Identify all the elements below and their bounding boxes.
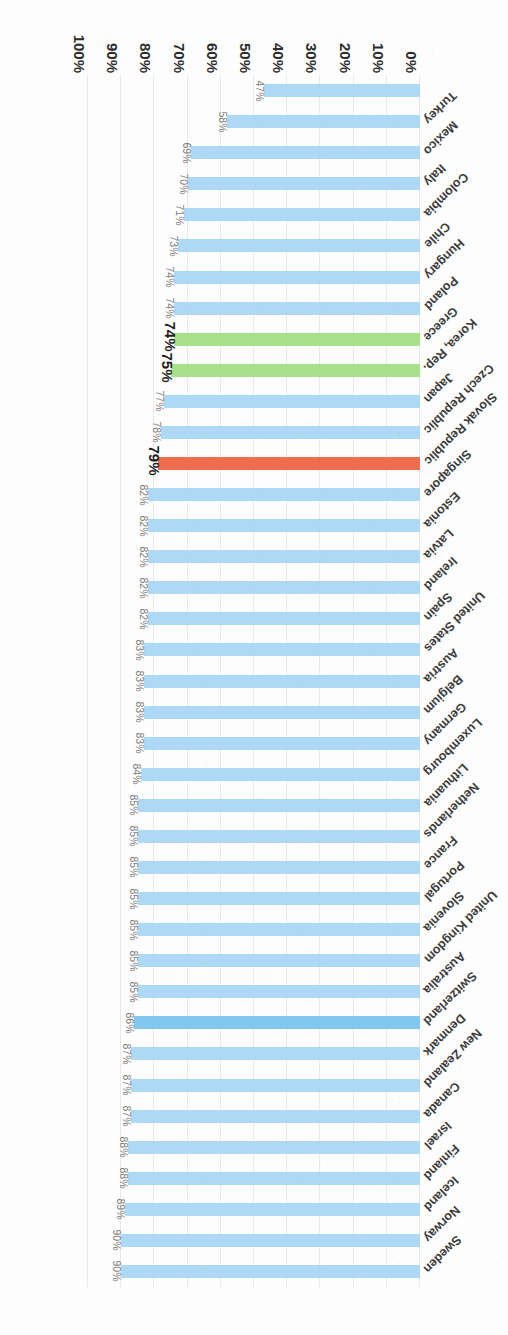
- plot-area: 90%Sweden90%Norway89%Iceland88%Finland88…: [88, 75, 420, 1287]
- bar-row: 85%Australia: [88, 976, 420, 1007]
- bar: [148, 612, 420, 625]
- bar-row: 85%Netherlands: [88, 821, 420, 852]
- bar-value-label: 82%: [138, 577, 150, 598]
- bar: [191, 146, 420, 159]
- bar: [128, 1141, 420, 1154]
- bar: [148, 581, 420, 594]
- bar: [174, 302, 420, 315]
- bar: [148, 519, 420, 532]
- x-axis-tick: 80%: [137, 43, 154, 73]
- bar-value-label: 77%: [154, 391, 166, 412]
- bar-value-label: 90%: [111, 1230, 123, 1251]
- bar-value-label: 47%: [254, 80, 266, 101]
- bar-value-label: 83%: [134, 733, 146, 754]
- bar: [131, 1079, 420, 1092]
- bar: [138, 923, 420, 936]
- bar: [148, 488, 420, 501]
- bar-row: 58%Turkey: [88, 106, 420, 137]
- bar: [134, 1016, 420, 1029]
- bar-value-label: 83%: [134, 702, 146, 723]
- bar: [121, 1234, 420, 1247]
- x-axis-tick: 50%: [237, 43, 254, 73]
- bar: [188, 177, 420, 190]
- bar: [164, 395, 420, 408]
- bar-row: 84%Luxembourg: [88, 759, 420, 790]
- bar-value-label: 85%: [128, 950, 140, 971]
- x-axis-tick: 10%: [370, 43, 387, 73]
- bar-value-label: 85%: [128, 981, 140, 1002]
- bar-row: 75%Korea, Rep.: [88, 355, 420, 386]
- bar: [227, 115, 420, 128]
- bar-row: 83%United States: [88, 634, 420, 665]
- bar-value-label: 82%: [138, 484, 150, 505]
- bar-row: 82%Singapore: [88, 479, 420, 510]
- bar-row: 90%Sweden: [88, 1256, 420, 1287]
- bar-row: 85%Lithuania: [88, 790, 420, 821]
- bar-row: 87%Denmark: [88, 1038, 420, 1069]
- bar: [161, 426, 420, 439]
- bar: [138, 892, 420, 905]
- rotated-chart-wrapper: 90%Sweden90%Norway89%Iceland88%Finland88…: [0, 0, 508, 1335]
- x-axis-tick: 60%: [204, 43, 221, 73]
- x-axis-tick: 30%: [303, 43, 320, 73]
- bar: [178, 239, 420, 252]
- bar-value-label: 83%: [134, 671, 146, 692]
- bar-value-label: 82%: [138, 515, 150, 536]
- bar-row: 82%Spain: [88, 603, 420, 634]
- bar: [174, 271, 420, 284]
- bar: [144, 675, 420, 688]
- bar-row: 87%New Zealand: [88, 1069, 420, 1100]
- bar-row: 69%Mexico: [88, 137, 420, 168]
- bar-row: 85%Slovenia: [88, 914, 420, 945]
- bar: [144, 737, 420, 750]
- bar-value-label: 58%: [217, 111, 229, 132]
- x-axis-tick: 100%: [71, 35, 88, 73]
- bar-row: 88%Finland: [88, 1163, 420, 1194]
- bar: [138, 954, 420, 967]
- bar-row: 85%Portugal: [88, 883, 420, 914]
- bar-row: 82%Estonia: [88, 510, 420, 541]
- bar-row: 77%Japan: [88, 386, 420, 417]
- bar-row: 85%France: [88, 852, 420, 883]
- bar-row: 74%Greece: [88, 324, 420, 355]
- x-axis-tick: 70%: [171, 43, 188, 73]
- bar-row: 85%United Kingdom: [88, 945, 420, 976]
- bar-value-label: 74%: [162, 322, 179, 352]
- bar-row: 47%: [88, 75, 420, 106]
- bar-row: 79%Slovak Republic: [88, 448, 420, 479]
- bar-row: 86%Switzerland: [88, 1007, 420, 1038]
- bar-row: 83%Germany: [88, 728, 420, 759]
- chart-area: 90%Sweden90%Norway89%Iceland88%Finland88…: [0, 0, 508, 1335]
- bar-row: 82%Ireland: [88, 572, 420, 603]
- bar-value-label: 69%: [181, 142, 193, 163]
- x-axis-tick: 40%: [270, 43, 287, 73]
- bar-row: 70%Italy: [88, 168, 420, 199]
- category-label: Ireland: [421, 554, 460, 593]
- bar-value-label: 87%: [121, 1075, 133, 1096]
- bar-value-label: 88%: [118, 1137, 130, 1158]
- bar: [144, 643, 420, 656]
- bar: [144, 706, 420, 719]
- x-axis-tick: 20%: [337, 43, 354, 73]
- bar-row: 89%Iceland: [88, 1194, 420, 1225]
- bar-value-label: 79%: [145, 446, 162, 476]
- bar-row: 82%Latvia: [88, 541, 420, 572]
- bar-value-label: 85%: [128, 888, 140, 909]
- x-axis-tick: 90%: [104, 43, 121, 73]
- bar: [264, 84, 420, 97]
- bar-row: 83%Austria: [88, 665, 420, 696]
- bar: [171, 364, 420, 377]
- bar-row: 87%Canada: [88, 1101, 420, 1132]
- bar-value-label: 71%: [174, 204, 186, 225]
- bar-row: 88%Israel: [88, 1132, 420, 1163]
- bar-row: 73%Chile: [88, 230, 420, 261]
- bar-value-label: 74%: [164, 298, 176, 319]
- bar-value-label: 87%: [121, 1106, 133, 1127]
- bar: [141, 768, 420, 781]
- bar: [158, 457, 420, 470]
- bar-row: 74%Poland: [88, 293, 420, 324]
- bar: [121, 1265, 420, 1278]
- bar: [138, 799, 420, 812]
- bar-value-label: 87%: [121, 1043, 133, 1064]
- x-axis-tick-labels: 0%10%20%30%40%50%60%70%80%90%100%: [88, 13, 420, 73]
